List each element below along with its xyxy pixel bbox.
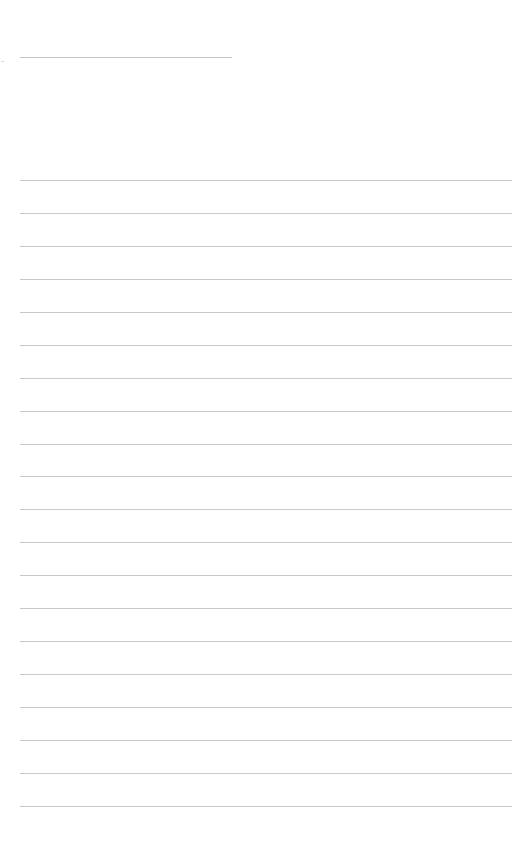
ruled-line bbox=[20, 608, 512, 609]
ruled-line bbox=[20, 575, 512, 576]
ruled-line bbox=[20, 740, 512, 741]
ruled-line bbox=[20, 674, 512, 675]
ruled-line bbox=[20, 476, 512, 477]
ruled-line bbox=[20, 773, 512, 774]
ruled-line bbox=[20, 312, 512, 313]
ruled-lines bbox=[0, 0, 532, 851]
ruled-line bbox=[20, 806, 512, 807]
ruled-line bbox=[20, 641, 512, 642]
ruled-line bbox=[20, 542, 512, 543]
ruled-line bbox=[20, 180, 512, 181]
ruled-line bbox=[20, 345, 512, 346]
ruled-line bbox=[20, 279, 512, 280]
ruled-page bbox=[0, 0, 532, 851]
ruled-line bbox=[20, 246, 512, 247]
ruled-line bbox=[20, 509, 512, 510]
ruled-line bbox=[20, 378, 512, 379]
ruled-line bbox=[20, 444, 512, 445]
ruled-line bbox=[20, 707, 512, 708]
ruled-line bbox=[20, 411, 512, 412]
ruled-line bbox=[20, 213, 512, 214]
